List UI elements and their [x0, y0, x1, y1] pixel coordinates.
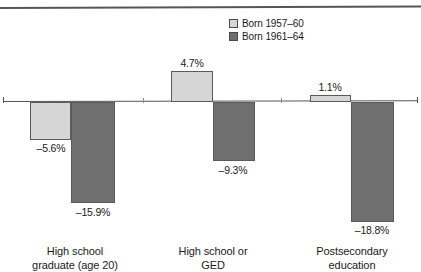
axis-end-cap-right [417, 97, 418, 103]
chart-plot-area: –5.6% –15.9% 4.7% –9.3% 1.1% –18.8% High… [0, 0, 421, 272]
axis-tick-1 [143, 98, 144, 103]
category-label-1: High school graduate (age 20) [8, 244, 142, 272]
category-label-3-line-2: education [285, 258, 419, 272]
category-label-1-line-1: High school [8, 244, 142, 258]
bar-group2-series-light [171, 71, 213, 102]
value-label-group2-dark: –9.3% [202, 164, 264, 176]
bar-group3-series-dark [351, 102, 394, 222]
category-label-2-line-1: High school or [146, 244, 280, 258]
value-label-group1-dark: –15.9% [62, 206, 124, 218]
bar-group1-series-light [30, 102, 71, 140]
bar-group2-series-dark [213, 102, 255, 161]
category-label-2: High school or GED [146, 244, 280, 272]
category-label-1-line-2: graduate (age 20) [8, 258, 142, 272]
value-label-group3-dark: –18.8% [341, 224, 403, 236]
category-label-3-line-1: Postsecondary [285, 244, 419, 258]
axis-end-cap-left [3, 97, 4, 103]
category-label-3: Postsecondary education [285, 244, 419, 272]
value-label-group2-light: 4.7% [165, 57, 219, 69]
axis-tick-2 [281, 98, 282, 103]
bar-group3-series-light [310, 95, 351, 102]
value-label-group3-light: 1.1% [303, 81, 357, 93]
category-label-2-line-2: GED [146, 258, 280, 272]
value-label-group1-light: –5.6% [24, 142, 78, 154]
